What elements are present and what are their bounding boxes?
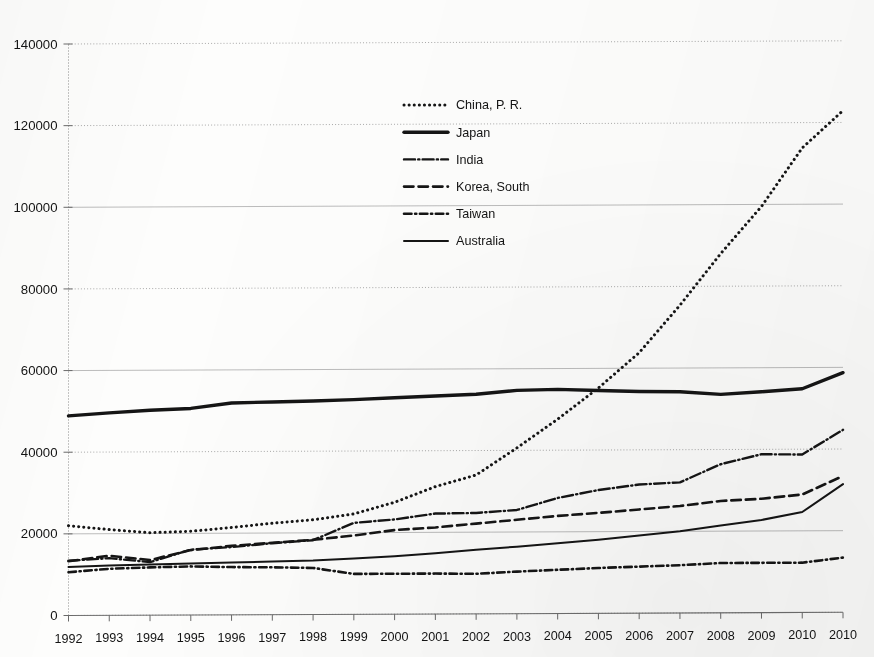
y-tick-label: 60000: [21, 363, 58, 378]
chart-legend: China, P. R.JapanIndiaKorea, SouthTaiwan…: [404, 98, 530, 248]
x-tick-label: 1992: [54, 632, 82, 646]
x-tick-label: 2010: [829, 628, 857, 642]
x-tick-label: 2006: [625, 629, 653, 643]
y-tick-label: 100000: [13, 200, 57, 215]
series-line-korea-south: [69, 476, 844, 561]
legend-label-china-p-r: China, P. R.: [456, 98, 522, 112]
line-chart-figure: 020000400006000080000100000120000140000 …: [0, 0, 874, 657]
legend-label-australia: Australia: [456, 234, 505, 248]
x-tick-label: 2000: [381, 630, 409, 644]
x-tick-label: 2005: [584, 629, 612, 643]
x-tick-label: 1998: [299, 630, 327, 644]
gridline-80000: [69, 286, 844, 289]
x-tick-label: 2003: [503, 630, 531, 644]
series-line-china-p-r: [69, 111, 844, 533]
y-tick-label: 0: [50, 608, 57, 623]
chart-canvas: 020000400006000080000100000120000140000 …: [0, 0, 874, 657]
y-tick-label: 40000: [21, 445, 58, 460]
x-tick-label: 2007: [666, 629, 694, 643]
legend-label-india: India: [456, 153, 483, 167]
x-tick-label: 2004: [544, 629, 572, 643]
gridline-60000: [69, 367, 844, 370]
gridline-140000: [69, 41, 844, 44]
x-tick-label: 2001: [421, 630, 449, 644]
gridline-40000: [69, 449, 844, 452]
y-tick-label: 20000: [21, 526, 58, 541]
y-tick-label: 120000: [13, 118, 57, 133]
series-line-india: [69, 430, 844, 562]
y-tick-label: 140000: [13, 37, 57, 52]
x-tick-label: 1995: [177, 631, 205, 645]
legend-label-taiwan: Taiwan: [456, 207, 495, 221]
x-tick-label: 2008: [707, 629, 735, 643]
axes: [64, 44, 844, 622]
x-tick-label: 1994: [136, 631, 164, 645]
y-axis-tick-labels: 020000400006000080000100000120000140000: [13, 37, 57, 624]
x-tick-label: 2009: [747, 629, 775, 643]
series-line-japan: [69, 373, 844, 416]
x-axis-line: [69, 612, 844, 615]
x-tick-label: 1997: [258, 631, 286, 645]
x-tick-label: 1993: [95, 631, 123, 645]
x-tick-label: 2010: [788, 628, 816, 642]
x-tick-label: 1996: [218, 631, 246, 645]
y-tick-label: 80000: [21, 282, 58, 297]
x-axis-tick-labels: 1992199319941995199619971998199920002001…: [54, 628, 857, 645]
legend-label-japan: Japan: [456, 126, 490, 140]
x-tick-label: 2002: [462, 630, 490, 644]
series-line-taiwan: [69, 558, 844, 574]
x-tick-label: 1999: [340, 630, 368, 644]
legend-label-korea-south: Korea, South: [456, 180, 530, 194]
